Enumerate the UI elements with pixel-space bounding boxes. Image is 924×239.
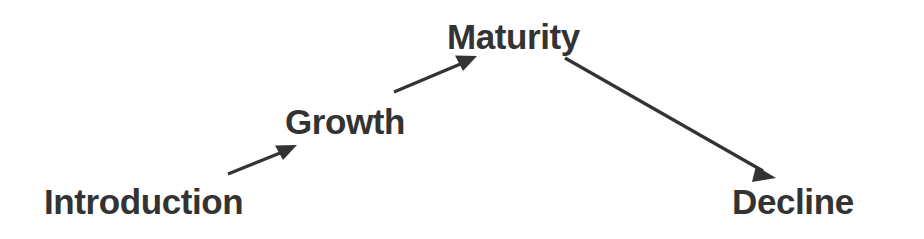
stage-label-decline: Decline [732, 184, 854, 219]
stage-label-maturity: Maturity [447, 19, 580, 54]
arrow-maturity-to-decline [565, 58, 776, 182]
stage-label-introduction: Introduction [44, 184, 243, 219]
product-life-cycle-diagram: Introduction Growth Maturity Decline [0, 0, 924, 239]
arrow-introduction-to-growth [228, 145, 297, 174]
stage-label-growth: Growth [285, 104, 405, 139]
arrow-growth-to-maturity [394, 56, 477, 93]
